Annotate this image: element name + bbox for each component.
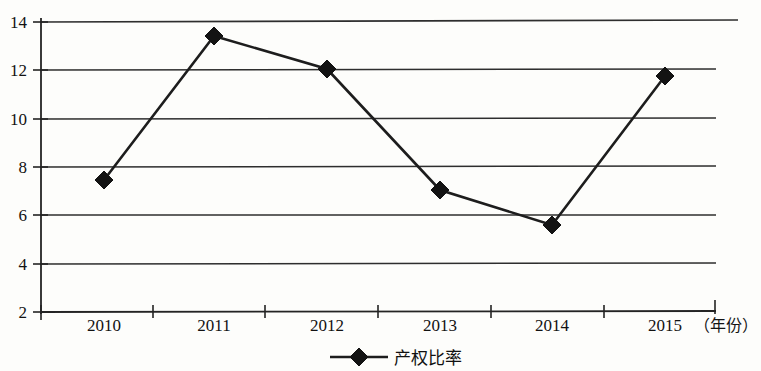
y-tick-label-2: 2 [19, 303, 28, 322]
series-产权比率 [95, 27, 674, 234]
x-tick-label-2012: 2012 [310, 316, 344, 335]
gridline-12 [40, 69, 716, 70]
y-tick-label-10: 10 [10, 110, 27, 129]
gridline-4 [40, 263, 716, 264]
x-tick-label-2015: 2015 [648, 316, 682, 335]
series-line-path [104, 36, 665, 225]
x-tick-label-2014: 2014 [535, 316, 570, 335]
chart-legend: 产权比率 [330, 348, 462, 368]
legend-label-产权比率: 产权比率 [394, 349, 462, 368]
y-axis: 14 12 10 8 6 4 2 [10, 13, 48, 322]
y-tick-label-8: 8 [19, 158, 28, 177]
gridline-8 [40, 166, 716, 167]
legend-diamond-icon [350, 348, 368, 366]
x-tick-label-2011: 2011 [197, 316, 230, 335]
gridline-14 [40, 20, 738, 22]
y-tick-label-12: 12 [10, 61, 27, 80]
gridline-10 [40, 118, 716, 119]
gridlines [40, 20, 738, 264]
line-chart: 14 12 10 8 6 4 2 2010 2011 2012 2013 201… [0, 0, 761, 371]
x-axis: 2010 2011 2012 2013 2014 2015 （年份） [40, 300, 758, 335]
y-tick-label-14: 14 [10, 13, 28, 32]
chart-container: 14 12 10 8 6 4 2 2010 2011 2012 2013 201… [0, 0, 761, 371]
x-tick-label-2010: 2010 [87, 316, 121, 335]
x-axis-unit-label: （年份） [694, 317, 758, 334]
y-tick-label-6: 6 [19, 206, 28, 225]
x-tick-label-2013: 2013 [423, 316, 457, 335]
y-tick-label-4: 4 [19, 255, 28, 274]
